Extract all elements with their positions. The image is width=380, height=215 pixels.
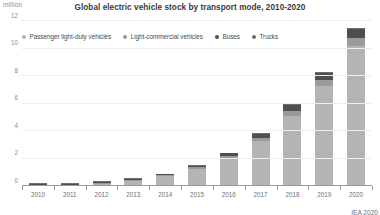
x-axis-tick-label: 2015 (190, 191, 204, 198)
bar-group[interactable] (188, 165, 206, 186)
y-axis-tick-label: 0 (14, 176, 18, 183)
x-axis-tick-label: 2018 (285, 191, 299, 198)
bar-segment (347, 38, 365, 46)
x-axis-tick (54, 186, 55, 190)
x-axis-tick (86, 186, 87, 190)
gridline (22, 158, 372, 159)
x-axis-tick (277, 186, 278, 190)
y-axis-tick-label: 12 (11, 11, 18, 18)
gridline (22, 20, 372, 21)
x-axis-tick-label: 2017 (254, 191, 268, 198)
bar-segment (347, 46, 365, 186)
x-axis-tick (22, 186, 23, 190)
plot-area: 024681012 (22, 21, 372, 186)
x-axis-tick-label: 2013 (126, 191, 140, 198)
bar-group[interactable] (347, 28, 365, 186)
gridline (22, 48, 372, 49)
x-axis-tick (372, 186, 373, 190)
x-axis-tick (117, 186, 118, 190)
y-axis-tick-label: 10 (11, 39, 18, 46)
x-axis-tick-label: 2020 (349, 191, 363, 198)
bar-segment (315, 86, 333, 186)
gridline (22, 130, 372, 131)
bar-group[interactable] (252, 133, 270, 186)
bar-segment (347, 29, 365, 37)
x-axis-tick (245, 186, 246, 190)
gridline (22, 103, 372, 104)
y-axis-tick-label: 6 (14, 94, 18, 101)
x-axis-tick-label: 2016 (222, 191, 236, 198)
x-axis-tick (181, 186, 182, 190)
bar-segment (283, 116, 301, 186)
x-axis-tick (308, 186, 309, 190)
y-axis-tick-label: 2 (14, 149, 18, 156)
source-note: IEA 2020 (351, 209, 378, 215)
x-axis-tick-label: 2011 (63, 191, 77, 198)
bar-segment (188, 169, 206, 186)
y-axis-tick-label: 4 (14, 121, 18, 128)
x-axis-tick-label: 2012 (95, 191, 109, 198)
gridline (22, 75, 372, 76)
x-axis-tick-label: 2019 (317, 191, 331, 198)
x-axis-tick (213, 186, 214, 190)
bar-segment (252, 141, 270, 186)
chart-container: million Global electric vehicle stock by… (0, 0, 380, 215)
y-axis-tick-label: 8 (14, 66, 18, 73)
x-axis-tick-label: 2014 (158, 191, 172, 198)
bar-group[interactable] (283, 104, 301, 186)
bars-layer (22, 21, 372, 186)
chart-title: Global electric vehicle stock by transpo… (0, 3, 380, 12)
x-axis-tick (340, 186, 341, 190)
x-axis: 2010201120122013201420152016201720182019… (22, 186, 372, 212)
bar-group[interactable] (315, 72, 333, 186)
x-axis-tick-label: 2010 (31, 191, 45, 198)
bar-segment (220, 158, 238, 186)
x-axis-tick (149, 186, 150, 190)
